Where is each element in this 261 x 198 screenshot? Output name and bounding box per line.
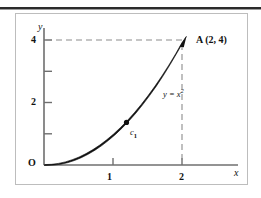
figure-root: y x 4 2 O 1 2 A (2, 4) y = x2 c1: [0, 0, 261, 198]
curve-equation-base: y = x: [163, 89, 181, 99]
point-c1-marker: [124, 120, 129, 125]
point-a-label: A (2, 4): [196, 35, 227, 45]
point-c1-label: c1: [130, 127, 137, 139]
y-tick-label-4: 4: [31, 35, 36, 45]
y-axis-label: y: [38, 22, 42, 32]
curve-tip-marker: [180, 36, 187, 47]
point-c1-subscript: 1: [134, 132, 137, 139]
x-axis-label: x: [234, 168, 238, 178]
x-tick-label-2: 2: [179, 172, 184, 182]
origin-label: O: [28, 158, 36, 168]
curve-equation-exponent: 2: [181, 87, 184, 94]
curve-equation-label: y = x2: [163, 88, 184, 98]
y-tick-label-2: 2: [31, 97, 36, 107]
x-tick-label-1: 1: [107, 172, 112, 182]
parabola-curve: [44, 36, 186, 165]
